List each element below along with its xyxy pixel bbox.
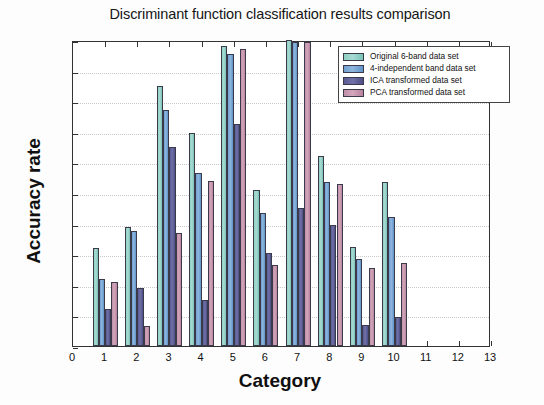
y-tick-mark — [73, 348, 78, 349]
y-tick-mark — [73, 73, 78, 74]
x-tick-mark — [330, 42, 331, 47]
x-tick-mark — [234, 42, 235, 47]
y-tick-mark — [73, 287, 78, 288]
x-tick-mark — [202, 42, 203, 47]
x-tick-mark — [427, 341, 428, 346]
legend-swatch-icon — [343, 65, 364, 73]
legend-swatch-icon — [343, 77, 364, 85]
legend-label: ICA transformed data set — [370, 76, 462, 85]
legend-swatch-icon — [343, 53, 364, 61]
bar — [337, 184, 343, 346]
bar — [240, 49, 246, 346]
x-tick-label: 12 — [443, 351, 473, 363]
y-tick-mark — [73, 134, 78, 135]
legend-item: Original 6-band data set — [343, 51, 505, 62]
y-gridline — [73, 195, 489, 196]
y-tick-mark — [73, 42, 78, 43]
legend-item: 4-independent band data set — [343, 63, 505, 74]
y-tick-mark — [73, 226, 78, 227]
x-axis-title: Category — [70, 370, 490, 392]
y-gridline — [73, 103, 489, 104]
y-tick-mark — [73, 195, 78, 196]
y-tick-mark — [73, 103, 78, 104]
bar — [272, 265, 278, 346]
y-gridline — [73, 134, 489, 135]
x-tick-mark — [298, 42, 299, 47]
figure: Discriminant function classification res… — [0, 0, 544, 405]
legend-swatch-icon — [343, 89, 364, 97]
legend-item: ICA transformed data set — [343, 75, 505, 86]
page-title: Discriminant function classification res… — [70, 6, 490, 22]
x-tick-label: 4 — [186, 351, 216, 363]
bar — [176, 233, 182, 346]
x-tick-label: 3 — [153, 351, 183, 363]
x-tick-label: 7 — [282, 351, 312, 363]
x-tick-label: 10 — [379, 351, 409, 363]
bar — [369, 268, 375, 346]
x-tick-mark — [137, 42, 138, 47]
x-tick-label: 9 — [346, 351, 376, 363]
legend: Original 6-band data set4-independent ba… — [338, 46, 510, 103]
x-tick-mark — [491, 341, 492, 346]
bar — [401, 263, 407, 346]
y-gridline — [73, 164, 489, 165]
x-tick-mark — [169, 42, 170, 47]
bar — [304, 42, 310, 346]
legend-label: 4-independent band data set — [370, 64, 476, 73]
legend-item: PCA transformed data set — [343, 87, 505, 98]
x-tick-label: 13 — [475, 351, 505, 363]
x-tick-mark — [105, 42, 106, 47]
legend-label: PCA transformed data set — [370, 88, 465, 97]
x-tick-label: 6 — [250, 351, 280, 363]
y-tick-mark — [73, 317, 78, 318]
bar — [208, 181, 214, 346]
bar — [144, 326, 150, 346]
x-tick-label: 2 — [121, 351, 151, 363]
x-tick-mark — [266, 42, 267, 47]
y-tick-mark — [73, 256, 78, 257]
x-tick-mark — [459, 341, 460, 346]
x-tick-label: 5 — [218, 351, 248, 363]
bar — [111, 282, 117, 346]
legend-label: Original 6-band data set — [370, 52, 459, 61]
y-tick-mark — [73, 164, 78, 165]
y-gridline — [73, 226, 489, 227]
x-tick-label: 8 — [314, 351, 344, 363]
x-tick-label: 11 — [411, 351, 441, 363]
x-tick-label: 0 — [57, 351, 87, 363]
y-axis-title: Accuracy rate — [23, 91, 45, 311]
x-tick-label: 1 — [89, 351, 119, 363]
